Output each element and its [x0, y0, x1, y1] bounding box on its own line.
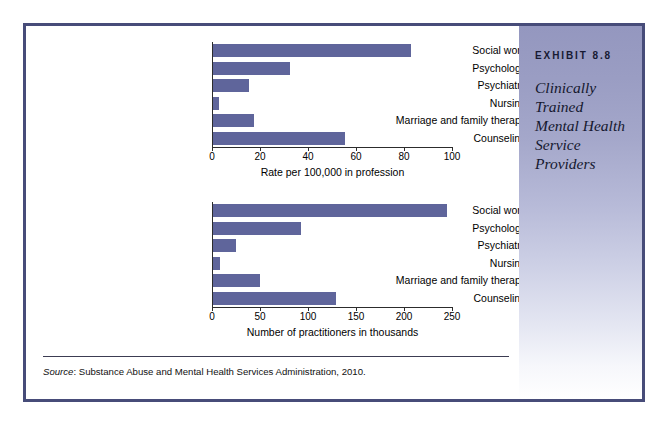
- bar: [213, 114, 254, 127]
- chart-rate-per-100000: Social work Psychology Psychiatry Nursin…: [26, 42, 526, 147]
- x-axis-tick-label: 50: [254, 311, 265, 322]
- bar: [213, 79, 249, 92]
- exhibit-title-line: Mental Health: [535, 116, 639, 135]
- x-axis-tick: [308, 147, 309, 151]
- x-axis-tick-label: 60: [350, 151, 361, 162]
- x-axis-tick-label: 40: [302, 151, 313, 162]
- bar: [213, 62, 290, 75]
- chart-number-of-practitioners: Social work Psychology Psychiatry Nursin…: [26, 202, 526, 307]
- bar: [213, 204, 447, 217]
- bar: [213, 132, 345, 145]
- x-axis-tick-label: 200: [396, 311, 413, 322]
- x-axis-tick: [212, 147, 213, 151]
- x-axis-line: [212, 307, 453, 308]
- exhibit-title: ClinicallyTrainedMental HealthServicePro…: [535, 78, 639, 173]
- x-axis-tick-label: 0: [209, 311, 215, 322]
- exhibit-title-line: Providers: [535, 154, 639, 173]
- source-note: Source: Substance Abuse and Mental Healt…: [43, 366, 366, 377]
- bar: [213, 97, 219, 110]
- x-axis-tick-label: 250: [444, 311, 461, 322]
- source-text: : Substance Abuse and Mental Health Serv…: [73, 366, 365, 377]
- x-axis-tick-label: 0: [209, 151, 215, 162]
- x-axis-tick: [452, 147, 453, 151]
- x-axis-tick: [308, 307, 309, 311]
- x-axis-tick-label: 150: [348, 311, 365, 322]
- x-axis-tick-label: 100: [444, 151, 461, 162]
- exhibit-number-label: EXHIBIT 8.8: [535, 50, 612, 61]
- plot-area: [212, 42, 452, 147]
- x-axis-tick: [356, 147, 357, 151]
- x-axis-line: [212, 147, 453, 148]
- x-axis-title: Number of practitioners in thousands: [212, 326, 453, 338]
- bar: [213, 292, 336, 305]
- plot-area: [212, 202, 452, 307]
- x-axis-tick-label: 20: [254, 151, 265, 162]
- source-divider: [43, 356, 509, 357]
- exhibit-frame: Social work Psychology Psychiatry Nursin…: [23, 23, 645, 402]
- x-axis-tick: [260, 307, 261, 311]
- x-axis-tick: [452, 307, 453, 311]
- x-axis-tick: [260, 147, 261, 151]
- source-keyword: Source: [43, 366, 73, 377]
- bar: [213, 222, 301, 235]
- exhibit-title-line: Clinically: [535, 78, 639, 97]
- x-axis-tick: [404, 147, 405, 151]
- bar: [213, 274, 260, 287]
- x-axis-tick-label: 100: [300, 311, 317, 322]
- x-axis-tick: [356, 307, 357, 311]
- exhibit-title-line: Trained: [535, 97, 639, 116]
- bar: [213, 44, 411, 57]
- x-axis-tick-label: 80: [398, 151, 409, 162]
- x-axis-title: Rate per 100,000 in profession: [212, 166, 453, 178]
- exhibit-sidebar-panel: EXHIBIT 8.8 ClinicallyTrainedMental Heal…: [519, 26, 642, 399]
- exhibit-title-line: Service: [535, 135, 639, 154]
- bar: [213, 239, 236, 252]
- x-axis-tick: [212, 307, 213, 311]
- x-axis-tick: [404, 307, 405, 311]
- bar: [213, 257, 220, 270]
